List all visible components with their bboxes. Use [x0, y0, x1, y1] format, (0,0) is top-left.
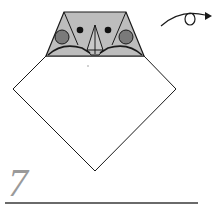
right-cheek	[119, 30, 133, 44]
body-diamond	[13, 56, 176, 171]
step-divider	[5, 202, 198, 204]
origami-diagram	[0, 0, 214, 214]
left-cheek	[55, 30, 69, 44]
left-eye	[77, 27, 84, 34]
center-mark	[87, 65, 89, 67]
step-number: 7	[8, 163, 28, 203]
right-eye	[105, 27, 112, 34]
turn-over-arrow-icon	[161, 12, 212, 26]
